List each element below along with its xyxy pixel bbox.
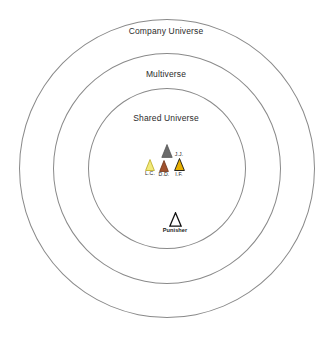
marker-if: J.J. I.F.: [166, 152, 192, 177]
triangle-outline-icon: [169, 212, 182, 227]
marker-punisher: Punisher: [158, 211, 192, 233]
triangle-icon: [174, 158, 185, 171]
marker-punisher-label: Punisher: [158, 227, 192, 233]
marker-if-label: I.F.: [166, 172, 192, 178]
ring-label-multiverse: Multiverse: [0, 69, 332, 79]
ring-label-company-universe: Company Universe: [0, 26, 332, 36]
marker-jj-label: J.J.: [166, 152, 192, 158]
ring-label-shared-universe: Shared Universe: [0, 113, 332, 123]
universe-diagram: Company Universe Multiverse Shared Unive…: [0, 0, 332, 337]
